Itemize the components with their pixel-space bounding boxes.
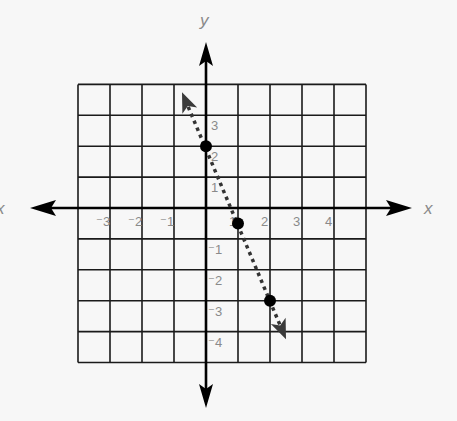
x-tick-label: 2 bbox=[261, 214, 268, 229]
grid bbox=[78, 84, 366, 362]
x-tick-label: 4 bbox=[325, 214, 332, 229]
y-tick-label: ⁻3 bbox=[208, 304, 222, 319]
y-tick-label: ⁻1 bbox=[208, 242, 222, 257]
y-axis-label: y bbox=[199, 11, 210, 30]
y-tick-label: 1 bbox=[211, 180, 218, 195]
x-tick-label: ⁻2 bbox=[128, 214, 142, 229]
tick-labels: ⁻3⁻2⁻11234321⁻1⁻2⁻3⁻4 bbox=[96, 118, 332, 349]
y-tick-label: 3 bbox=[211, 118, 218, 133]
x-tick-label: 3 bbox=[293, 214, 300, 229]
data-point bbox=[264, 295, 276, 307]
line-arrowhead-down-icon bbox=[271, 318, 286, 340]
x-tick-label: ⁻1 bbox=[160, 214, 174, 229]
y-tick-label: ⁻4 bbox=[208, 335, 222, 350]
axes bbox=[30, 42, 412, 408]
coordinate-plane: ⁻3⁻2⁻11234321⁻1⁻2⁻3⁻4 x x y bbox=[0, 0, 457, 421]
x-tick-label: ⁻3 bbox=[96, 214, 110, 229]
x-axis-label: x bbox=[423, 199, 433, 218]
line-arrowhead-up-icon bbox=[182, 92, 197, 114]
data-point bbox=[200, 140, 212, 152]
data-point bbox=[232, 217, 244, 229]
y-tick-label: ⁻2 bbox=[208, 273, 222, 288]
x-axis-label-left: x bbox=[0, 199, 5, 218]
graph-svg: ⁻3⁻2⁻11234321⁻1⁻2⁻3⁻4 x x y bbox=[0, 0, 457, 421]
